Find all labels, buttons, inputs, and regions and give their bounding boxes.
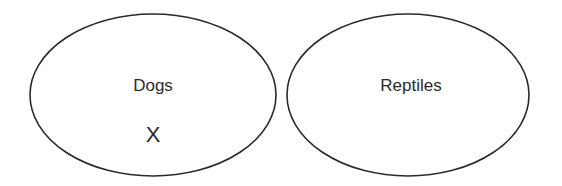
set-label-dogs: Dogs <box>133 76 173 96</box>
member-x-marker: X <box>146 122 161 148</box>
set-label-reptiles: Reptiles <box>380 76 441 96</box>
diagram-canvas <box>0 0 562 186</box>
